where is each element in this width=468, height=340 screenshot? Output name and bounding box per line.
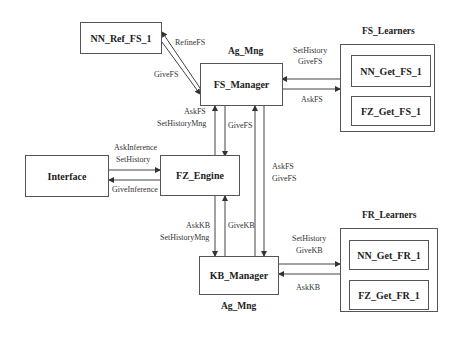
fz-get-fr-node: FZ_Get_FR_1 [349, 280, 429, 310]
sethistory-kb-label-2: GiveKB [296, 246, 323, 255]
fs-manager-label: FS_Manager [214, 79, 270, 90]
fs-manager-node: FS_Manager [200, 63, 283, 106]
ag-mng-top-label: Ag_Mng [228, 46, 263, 56]
giveinference-label: GiveInference [112, 185, 158, 194]
sethistory-kb-label-1: SetHistory [292, 234, 326, 243]
interface-node: Interface [25, 155, 109, 197]
fs-kb-label-2: GiveFS [272, 174, 296, 183]
ag-mng-bottom-label: Ag_Mng [221, 301, 256, 311]
fz-engine-node: FZ_Engine [160, 155, 240, 196]
nn-get-fs-label: NN_Get_FS_1 [360, 66, 422, 77]
askfs-learners-label: AskFS [301, 95, 323, 104]
fz-engine-label: FZ_Engine [176, 170, 224, 181]
kb-manager-label: KB_Manager [210, 270, 268, 281]
fr-learners-title: FR_Learners [362, 210, 416, 220]
askfs-engine-label-2: SetHistoryMng [157, 119, 206, 128]
sethistory-fs-label-1: SetHistory [293, 46, 327, 55]
fz-get-fr-label: FZ_Get_FR_1 [358, 290, 420, 301]
givekb-engine-label: GiveKB [228, 221, 255, 230]
askfs-engine-label-1: AskFS [184, 107, 206, 116]
interface-label: Interface [48, 171, 87, 182]
fs-learners-title: FS_Learners [362, 26, 415, 36]
givefs-engine-label: GiveFS [228, 121, 252, 130]
fz-get-fs-node: FZ_Get_FS_1 [351, 96, 431, 126]
give-fs-arrow [162, 42, 200, 94]
askinference-label-1: AskInference [114, 143, 157, 152]
give-fs-ref-label: GiveFS [154, 70, 178, 79]
fz-get-fs-label: FZ_Get_FS_1 [361, 106, 421, 117]
nn-get-fr-node: NN_Get_FR_1 [349, 240, 429, 270]
nn-get-fs-node: NN_Get_FS_1 [351, 55, 431, 87]
askkb-learners-label: AskKB [296, 283, 320, 292]
nn-ref-fs-node: NN_Ref_FS_1 [80, 22, 162, 54]
fs-kb-label-1: AskFS [272, 162, 294, 171]
nn-get-fr-label: NN_Get_FR_1 [357, 250, 420, 261]
sethistory-fs-label-2: GiveFS [298, 57, 322, 66]
refine-fs-label: RefineFS [175, 38, 205, 47]
nn-ref-fs-label: NN_Ref_FS_1 [90, 33, 151, 44]
askkb-engine-label-2: SetHistoryMng [160, 233, 209, 242]
kb-manager-node: KB_Manager [199, 256, 279, 295]
askinference-label-2: SetHistory [116, 155, 150, 164]
askkb-engine-label-1: AskKB [186, 221, 210, 230]
